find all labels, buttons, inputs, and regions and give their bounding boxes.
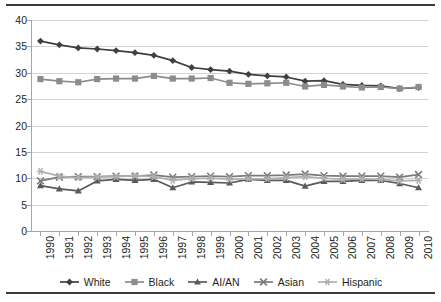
data-point-diamond	[94, 46, 101, 53]
data-point-diamond	[56, 41, 63, 48]
chart-title	[0, 0, 441, 3]
y-axis-tick-label: 35	[15, 40, 27, 52]
data-point-square	[132, 75, 138, 81]
legend-marker-triangle-icon	[187, 276, 208, 288]
data-point-square	[397, 85, 403, 91]
data-point-square	[264, 80, 270, 86]
data-point-square	[189, 75, 195, 81]
legend-label: Black	[149, 276, 175, 288]
legend-marker-square-icon	[124, 276, 145, 288]
chart-figure: 0510152025303540 19901991199219931994199…	[0, 0, 441, 302]
chart-legend: WhiteBlackAI/ANAsianHispanic	[0, 274, 441, 290]
x-axis-tick-label: 1991	[64, 236, 75, 259]
legend-marker-x-icon	[253, 276, 274, 288]
y-axis-tick-label: 40	[15, 14, 27, 26]
data-point-diamond	[226, 68, 233, 75]
data-point-square	[207, 75, 213, 81]
plot-area	[31, 20, 428, 231]
data-point-square	[359, 84, 365, 90]
data-point-diamond	[264, 73, 271, 80]
legend-item-black[interactable]: Black	[124, 276, 175, 288]
x-axis-tick-label: 2006	[347, 236, 358, 259]
y-axis-tick-label: 15	[15, 146, 27, 158]
data-point-square	[340, 83, 346, 89]
data-point-square	[415, 84, 421, 90]
data-point-diamond	[169, 57, 176, 64]
x-axis-tick-label: 1993	[102, 236, 113, 259]
x-axis-tick-label: 1998	[196, 236, 207, 259]
series-black	[37, 73, 421, 92]
x-axis-tick-label: 1996	[158, 236, 169, 259]
x-axis-tick-label: 1995	[139, 236, 150, 259]
x-axis-tick-label: 1990	[45, 236, 56, 259]
data-point-diamond	[283, 74, 290, 81]
bottom-divider-rule	[6, 292, 435, 294]
data-point-square	[245, 81, 251, 87]
x-axis-tick-label: 1994	[121, 236, 132, 259]
data-point-asterisk	[37, 168, 44, 174]
legend-label: White	[84, 276, 111, 288]
data-point-diamond	[132, 49, 139, 56]
top-divider-rule	[6, 4, 435, 6]
data-point-square	[113, 75, 119, 81]
legend-marker-diamond-icon	[59, 276, 80, 288]
data-point-diamond	[245, 71, 252, 78]
data-point-diamond	[207, 66, 214, 73]
legend-label: Hispanic	[342, 276, 382, 288]
data-point-square	[226, 80, 232, 86]
x-axis-tick-label: 1992	[83, 236, 94, 259]
data-point-square	[37, 76, 43, 82]
data-point-square	[378, 84, 384, 90]
x-axis-tick-label: 2001	[253, 236, 264, 259]
data-point-square	[302, 83, 308, 89]
data-point-asterisk	[324, 279, 331, 285]
y-axis-tick-label: 30	[15, 67, 27, 79]
data-point-square	[75, 79, 81, 85]
data-point-diamond	[37, 38, 44, 45]
y-axis-tick-label: 25	[15, 93, 27, 105]
x-axis-tick-label: 2003	[291, 236, 302, 259]
y-axis-tick-label: 10	[15, 172, 27, 184]
x-axis-tick-label: 2008	[385, 236, 396, 259]
legend-item-ai-an[interactable]: AI/AN	[187, 276, 239, 288]
data-point-diamond	[188, 64, 195, 71]
data-point-diamond	[113, 47, 120, 54]
x-axis-tick-label: 1997	[177, 236, 188, 259]
data-point-diamond	[150, 52, 157, 59]
x-axis-tick-label: 2009	[404, 236, 415, 259]
legend-item-asian[interactable]: Asian	[253, 276, 304, 288]
data-point-diamond	[66, 279, 73, 286]
x-axis-tick-label: 2000	[234, 236, 245, 259]
series-lines	[31, 20, 428, 231]
x-axis-tick-label: 2002	[272, 236, 283, 259]
data-point-square	[56, 78, 62, 84]
legend-item-white[interactable]: White	[59, 276, 111, 288]
data-point-square	[151, 73, 157, 79]
x-axis-tick-label: 1999	[215, 236, 226, 259]
data-point-square	[94, 76, 100, 82]
data-point-square	[131, 279, 137, 285]
y-axis-labels: 0510152025303540	[0, 20, 27, 231]
x-axis-tick-label: 2010	[423, 236, 434, 259]
x-axis-tick-label: 2005	[329, 236, 340, 259]
data-point-square	[283, 80, 289, 86]
legend-label: Asian	[278, 276, 304, 288]
data-point-square	[170, 75, 176, 81]
legend-label: AI/AN	[212, 276, 239, 288]
data-point-square	[321, 82, 327, 88]
data-point-diamond	[75, 45, 82, 52]
y-axis-tick-label: 20	[15, 120, 27, 132]
x-axis-labels: 1990199119921993199419951996199719981999…	[31, 236, 428, 272]
x-axis-tick-label: 2007	[366, 236, 377, 259]
legend-item-hispanic[interactable]: Hispanic	[317, 276, 382, 288]
x-axis-tick-label: 2004	[310, 236, 321, 259]
legend-marker-asterisk-icon	[317, 276, 338, 288]
